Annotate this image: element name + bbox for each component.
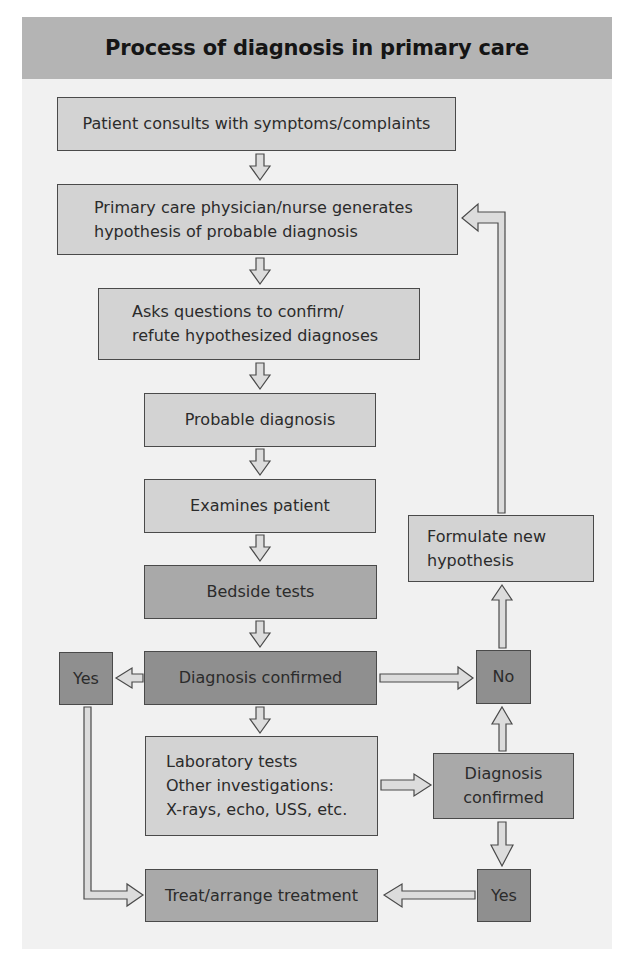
- arrow-left-icon: [116, 668, 143, 688]
- arrow-down-icon: [250, 535, 270, 561]
- arrow-down-icon: [250, 449, 270, 475]
- arrow-down-icon: [250, 363, 270, 389]
- arrow-down-icon: [250, 258, 270, 284]
- arrow-right-icon: [380, 667, 473, 689]
- arrow-down-icon: [250, 707, 270, 733]
- elbow-arrow-icon: [84, 707, 143, 906]
- arrow-up-icon: [492, 585, 512, 648]
- loop-arrow-icon: [462, 204, 505, 513]
- arrow-down-icon: [250, 621, 270, 647]
- arrows-layer: [0, 0, 631, 963]
- arrow-left-icon: [384, 884, 475, 907]
- arrow-down-icon: [250, 154, 270, 180]
- arrow-down-icon: [491, 822, 513, 866]
- arrow-up-icon: [492, 707, 512, 751]
- arrow-right-icon: [381, 774, 431, 796]
